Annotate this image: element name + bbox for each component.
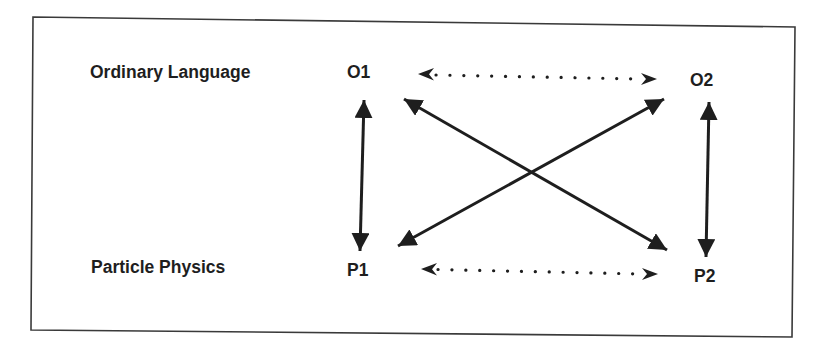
edge-o1-o2-dotted bbox=[436, 75, 640, 79]
arrowhead-left-icon bbox=[421, 263, 437, 276]
arrowhead-left-icon bbox=[418, 68, 434, 81]
row-label-ordinary-language: Ordinary Language bbox=[90, 64, 250, 82]
arrowhead-right-icon bbox=[642, 268, 658, 280]
edge-o2-p2 bbox=[706, 102, 709, 257]
node-p2: P2 bbox=[694, 268, 715, 286]
edge-p1-p2-dotted bbox=[438, 270, 642, 275]
row-label-particle-physics: Particle Physics bbox=[91, 259, 225, 277]
edge-o1-p2 bbox=[404, 99, 667, 250]
arrowhead-right-icon bbox=[641, 73, 657, 85]
node-o1: O1 bbox=[347, 64, 370, 82]
diagram-canvas: Ordinary Language Particle Physics O1 O2… bbox=[0, 0, 826, 352]
edge-o1-p1 bbox=[360, 100, 364, 251]
diagram-graphics bbox=[0, 0, 826, 352]
node-o2: O2 bbox=[690, 72, 713, 90]
node-p1: P1 bbox=[347, 262, 368, 280]
